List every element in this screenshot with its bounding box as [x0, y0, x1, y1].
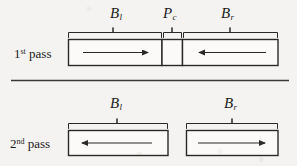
brace-p-center-pass1: [164, 28, 182, 38]
brace-b-left-pass2: [69, 119, 168, 129]
box-p-center-pass1: [162, 40, 183, 66]
brace-b-right-pass2: [187, 119, 278, 129]
brace-b-right-pass1: [184, 28, 278, 38]
brace-b-left-pass1: [69, 28, 162, 38]
figure-canvas: Bl Pc Br 1st pass Bl Br 2nd pass: [0, 0, 297, 166]
figure-vector-layer: [0, 0, 297, 166]
